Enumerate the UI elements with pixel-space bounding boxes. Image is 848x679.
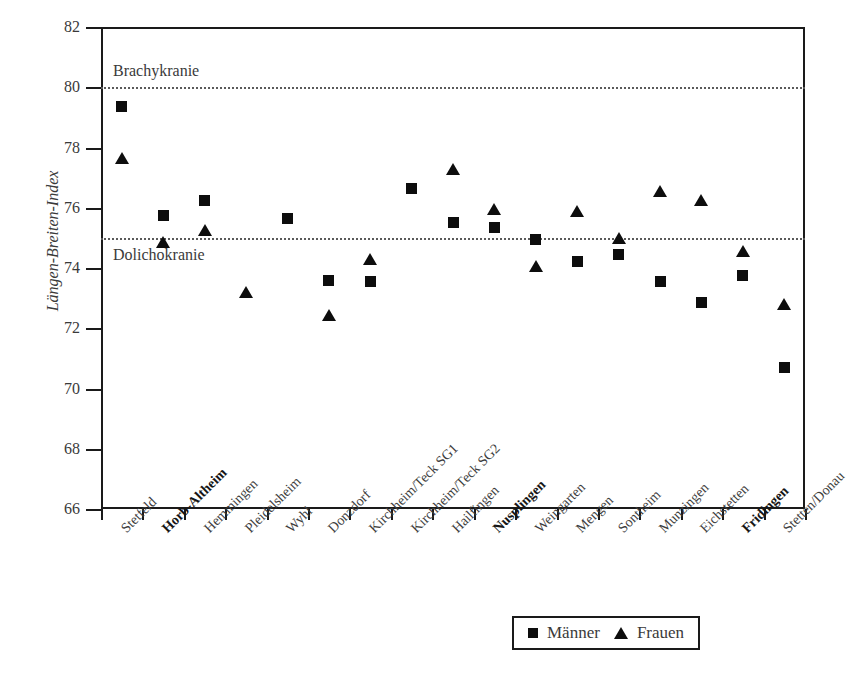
data-point-triangle (777, 298, 791, 310)
y-axis-tick (86, 27, 101, 29)
y-axis-tick-label: 72 (34, 320, 80, 336)
data-point-square (158, 210, 169, 221)
y-axis-tick-label: 70 (34, 381, 80, 397)
y-axis-tick (86, 208, 101, 210)
data-point-square (613, 249, 624, 260)
data-point-square (199, 195, 210, 206)
data-point-square (323, 275, 334, 286)
data-point-triangle (736, 245, 750, 257)
data-point-square (448, 217, 459, 228)
data-point-square (779, 362, 790, 373)
y-axis-tick (86, 148, 101, 150)
y-axis-tick-label: 74 (34, 260, 80, 276)
data-point-triangle (529, 260, 543, 272)
data-point-square (572, 256, 583, 267)
y-axis-tick-label: 68 (34, 441, 80, 457)
y-axis-tick (86, 389, 101, 391)
data-point-triangle (653, 185, 667, 197)
legend-label: Frauen (637, 623, 684, 643)
data-point-triangle (612, 232, 626, 244)
reference-line-label: Brachykranie (113, 63, 199, 79)
data-point-square (282, 213, 293, 224)
y-axis-tick-label: 82 (34, 19, 80, 35)
data-point-square (737, 270, 748, 281)
data-point-square (696, 297, 707, 308)
data-point-square (655, 276, 666, 287)
y-axis-tick-label: 80 (34, 79, 80, 95)
data-point-triangle (487, 203, 501, 215)
data-point-square (406, 183, 417, 194)
data-point-square (116, 101, 127, 112)
legend-item: Männer (528, 623, 600, 643)
data-point-square (489, 222, 500, 233)
y-axis-tick (86, 328, 101, 330)
legend-label: Männer (547, 623, 600, 643)
reference-line-label: Dolichokranie (113, 247, 205, 263)
data-point-triangle (156, 236, 170, 248)
y-axis-tick-label: 78 (34, 140, 80, 156)
y-axis-tick (86, 268, 101, 270)
reference-line (101, 238, 805, 240)
y-axis-tick-label: 66 (34, 501, 80, 517)
y-axis-tick (86, 87, 101, 89)
data-point-triangle (570, 205, 584, 217)
y-axis-tick (86, 449, 101, 451)
plot-area (101, 27, 805, 509)
square-marker-icon (528, 628, 538, 638)
y-axis-tick-label: 76 (34, 200, 80, 216)
x-axis-tick (101, 509, 103, 520)
data-point-triangle (322, 309, 336, 321)
data-point-triangle (239, 286, 253, 298)
data-point-triangle (198, 224, 212, 236)
legend-item: Frauen (614, 623, 684, 643)
data-point-square (365, 276, 376, 287)
triangle-marker-icon (614, 627, 628, 639)
caption-partial (0, 668, 826, 679)
data-point-triangle (694, 194, 708, 206)
data-point-triangle (446, 163, 460, 175)
chart-legend: MännerFrauen (512, 616, 700, 650)
data-point-triangle (115, 152, 129, 164)
data-point-triangle (363, 253, 377, 265)
data-point-square (530, 234, 541, 245)
reference-line (101, 87, 805, 89)
y-axis-tick (86, 509, 101, 511)
